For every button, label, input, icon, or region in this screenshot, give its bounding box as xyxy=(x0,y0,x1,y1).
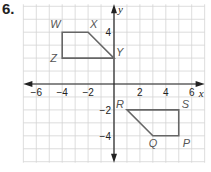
y-tick-label: 4 xyxy=(105,27,111,38)
x-tick-label: −4 xyxy=(56,87,68,98)
vertex-label-w: W xyxy=(50,18,62,30)
vertex-label-x: X xyxy=(89,18,98,30)
x-tick-label: −2 xyxy=(82,87,94,98)
vertex-label-z: Z xyxy=(49,52,58,64)
x-axis-label: x xyxy=(198,87,204,99)
y-axis-label: y xyxy=(117,3,123,15)
y-tick-label: −4 xyxy=(100,131,112,142)
vertex-label-q: Q xyxy=(149,137,158,149)
coordinate-plane: yx−6−4−22464−2−4WXYZRSPQ xyxy=(0,0,211,172)
y-axis-arrow-up-icon xyxy=(111,4,117,13)
vertex-label-s: S xyxy=(182,98,190,110)
vertex-label-r: R xyxy=(116,98,124,110)
vertex-label-p: P xyxy=(183,137,191,149)
x-tick-label: 4 xyxy=(163,87,169,98)
x-tick-label: 6 xyxy=(189,87,195,98)
x-tick-label: −6 xyxy=(31,87,43,98)
x-tick-label: 2 xyxy=(137,87,143,98)
vertex-label-y: Y xyxy=(116,46,124,58)
y-tick-label: −2 xyxy=(100,105,112,116)
